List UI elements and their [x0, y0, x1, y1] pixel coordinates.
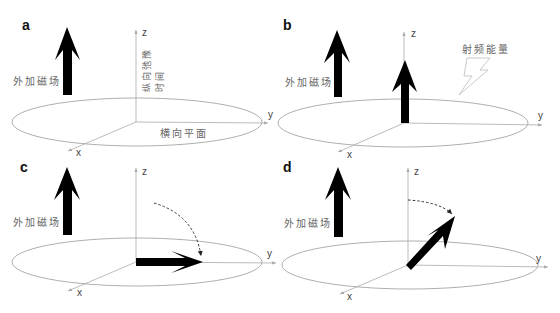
y-axis-label: y: [267, 248, 272, 259]
z-axis-label: z: [414, 166, 419, 177]
panel-c: c 外加磁场 z y x: [12, 159, 276, 298]
dashed-rotation-arc: [154, 203, 201, 256]
y-axis: [408, 265, 548, 267]
panel-d: d 外加磁场 z y x: [282, 159, 548, 302]
transverse-plane-label: 横向平面: [160, 127, 208, 139]
external-field-label: 外加磁场: [284, 217, 332, 229]
y-axis: [404, 123, 542, 125]
y-axis-label: y: [268, 109, 273, 120]
panel-a: a 外加磁场 z y x 纵向弛豫 时间 横向平面: [12, 17, 273, 158]
net-magnetization-arrow: [136, 251, 203, 273]
z-axis-label: z: [142, 166, 147, 177]
longitudinal-relaxation-label: 纵向弛豫 时间: [141, 48, 165, 92]
z-axis-label: z: [411, 28, 416, 39]
rf-energy-label: 射频能量: [462, 43, 510, 55]
x-axis-label: x: [76, 147, 81, 158]
rf-energy-lightning-icon: [459, 58, 490, 95]
net-magnetization-arrow: [406, 216, 455, 270]
x-axis-label: x: [347, 291, 352, 302]
panel-b: b 外加磁场 z y x 射频能量: [278, 17, 543, 160]
panel-label-a: a: [22, 17, 30, 33]
mri-magnetization-diagram: a 外加磁场 z y x 纵向弛豫 时间 横向平面 b 外加磁场 z y x 射…: [0, 0, 560, 313]
panel-label-b: b: [283, 17, 292, 33]
z-axis-label: z: [142, 27, 147, 38]
y-axis-label: y: [536, 253, 541, 264]
panel-label-d: d: [283, 159, 292, 175]
svg-text:纵向弛豫: 纵向弛豫: [141, 48, 152, 92]
external-field-label: 外加磁场: [285, 76, 333, 88]
x-axis: [340, 265, 408, 294]
external-field-label: 外加磁场: [13, 75, 61, 87]
y-axis: [136, 122, 268, 123]
x-axis-label: x: [77, 287, 82, 298]
external-field-label: 外加磁场: [13, 216, 61, 228]
dashed-rotation-arc: [408, 200, 452, 214]
y-axis-label: y: [538, 110, 543, 121]
net-magnetization-arrow: [392, 60, 417, 123]
x-axis-label: x: [347, 149, 352, 160]
panel-label-c: c: [20, 159, 28, 175]
svg-text:时间: 时间: [154, 70, 165, 92]
x-axis: [338, 123, 404, 152]
